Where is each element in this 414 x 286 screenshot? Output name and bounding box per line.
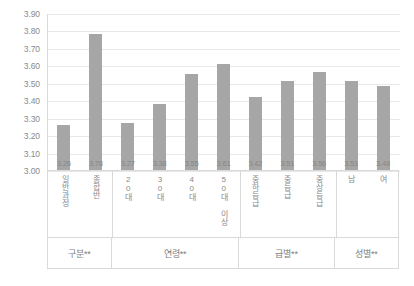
category-label-cell: 20대 [112, 171, 144, 237]
bar-value-label: 3.55 [185, 159, 199, 168]
group-separator [336, 171, 337, 237]
bar-value-label: 3.56 [312, 159, 326, 168]
y-axis-tick-label: 3.20 [24, 131, 40, 141]
y-axis-tick-label: 3.80 [24, 26, 40, 36]
category-label: 남 [346, 175, 354, 183]
group-separator [240, 171, 241, 237]
bar-value-label: 3.48 [376, 159, 390, 168]
category-label-cell: 중상등급 [303, 171, 335, 237]
y-axis-tick-label: 3.10 [24, 149, 40, 159]
bar-value-label: 3.38 [153, 159, 167, 168]
category-label: 20대 [123, 175, 131, 201]
bar-slot: 3.51 [335, 14, 367, 170]
bar-slot: 3.56 [303, 14, 335, 170]
category-label: 일반과정 [60, 175, 68, 207]
category-label-cell: 여 [366, 171, 398, 237]
y-axis-tick-label: 3.60 [24, 61, 40, 71]
category-label-cell: 중등급 [271, 171, 303, 237]
y-axis-tick-label: 3.90 [24, 9, 40, 19]
bar-value-label: 3.51 [280, 159, 294, 168]
bar-slot: 3.55 [176, 14, 208, 170]
y-axis-tick-label: 3.00 [24, 166, 40, 176]
bar-slot: 3.48 [367, 14, 399, 170]
bar-slot: 3.27 [112, 14, 144, 170]
y-axis-tick-label: 3.50 [24, 79, 40, 89]
bar-slot: 3.78 [80, 14, 112, 170]
group-label: 성별** [334, 238, 398, 268]
bar-slot: 3.26 [48, 14, 80, 170]
category-axis: 일반과정종합반20대30대40대50대 이상중하등급중등급중상등급남여 [47, 171, 399, 237]
bar-value-label: 3.27 [121, 159, 135, 168]
category-label-cell: 30대 [143, 171, 175, 237]
group-axis: 구분**연령**급별**성별** [47, 237, 399, 269]
bar-value-label: 3.26 [57, 159, 71, 168]
bars-layer: 3.263.783.273.383.553.613.423.513.563.51… [48, 14, 399, 170]
plot-area: 3.263.783.273.383.553.613.423.513.563.51… [47, 14, 399, 171]
category-label: 종합반 [92, 175, 100, 199]
bar[interactable]: 3.42 [249, 97, 262, 170]
category-label: 50대 이상 [219, 175, 227, 226]
bar-value-label: 3.51 [344, 159, 358, 168]
bar-slot: 3.42 [239, 14, 271, 170]
category-label-cell: 40대 [175, 171, 207, 237]
bar[interactable]: 3.51 [281, 81, 294, 170]
bar-slot: 3.38 [144, 14, 176, 170]
group-separator [112, 171, 113, 237]
category-label-cell: 중하등급 [239, 171, 271, 237]
bar[interactable]: 3.56 [313, 72, 326, 170]
y-axis-tick-label: 3.40 [24, 96, 40, 106]
bar[interactable]: 3.55 [185, 74, 198, 170]
y-axis: 3.903.803.703.603.503.403.303.203.103.00 [0, 14, 44, 171]
bar-slot: 3.51 [271, 14, 303, 170]
category-label-cell: 50대 이상 [207, 171, 239, 237]
y-axis-tick-label: 3.70 [24, 44, 40, 54]
bar[interactable]: 3.48 [377, 86, 390, 170]
category-label-cell: 남 [334, 171, 366, 237]
category-label: 중상등급 [314, 175, 322, 207]
category-label: 30대 [155, 175, 163, 201]
bar-value-label: 3.42 [248, 159, 262, 168]
bar-value-label: 3.61 [217, 159, 231, 168]
bar[interactable]: 3.26 [57, 125, 70, 170]
category-label-cell: 종합반 [80, 171, 112, 237]
bar[interactable]: 3.27 [121, 123, 134, 170]
category-label: 중등급 [282, 175, 290, 199]
group-label: 구분** [48, 238, 111, 268]
bar[interactable]: 3.38 [153, 104, 166, 170]
y-axis-tick-label: 3.30 [24, 114, 40, 124]
category-label-cell: 일반과정 [48, 171, 80, 237]
bar[interactable]: 3.78 [89, 34, 102, 170]
category-label: 중하등급 [251, 175, 259, 207]
bar-slot: 3.61 [208, 14, 240, 170]
bar[interactable]: 3.51 [345, 81, 358, 170]
group-label: 급별** [238, 238, 334, 268]
bar-chart: 3.903.803.703.603.503.403.303.203.103.00… [0, 0, 414, 286]
bar[interactable]: 3.61 [217, 64, 230, 170]
group-label: 연령** [111, 238, 238, 268]
category-label: 여 [378, 175, 386, 183]
bar-value-label: 3.78 [89, 159, 103, 168]
category-label: 40대 [187, 175, 195, 201]
